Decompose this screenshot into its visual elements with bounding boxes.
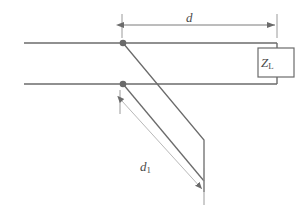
load-impedance-label: ZL (261, 56, 274, 71)
load-impedance-label-subscript: L (268, 61, 274, 71)
transmission-line-group (24, 43, 277, 84)
dimension-group-d1 (120, 90, 204, 205)
stub-branch-lower (123, 84, 204, 181)
diagram-canvas (0, 0, 304, 222)
stub-branch-group (123, 43, 204, 192)
dimension-label-d-text: d (186, 10, 193, 25)
dimension-label-d1: d1 (140, 160, 151, 175)
transmission-line-diagram: d d1 ZL (0, 0, 304, 222)
stub-branch-upper (123, 43, 204, 192)
dimension-line-d1 (122, 101, 202, 189)
dimension-label-d: d (186, 11, 193, 24)
dimension-group-d (122, 14, 277, 38)
dimension-label-d1-subscript: 1 (147, 165, 152, 175)
